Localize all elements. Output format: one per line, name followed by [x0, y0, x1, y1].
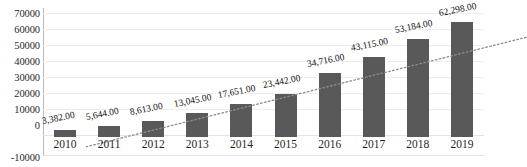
- bar: [54, 130, 76, 136]
- x-tick-label: 2012: [131, 138, 175, 151]
- x-tick-label: 2017: [352, 138, 396, 151]
- y-tick-label: 20000: [0, 89, 40, 100]
- y-tick-label: 10000: [0, 105, 40, 116]
- x-tick-label: 2010: [43, 138, 87, 151]
- y-tick-label: 0: [0, 121, 40, 132]
- y-tick-label: 70000: [0, 9, 40, 20]
- gridline: [43, 13, 484, 14]
- x-tick-label: 2014: [219, 138, 263, 151]
- x-tick-label: 2018: [396, 138, 440, 151]
- x-tick-label: 2011: [87, 138, 131, 151]
- chart-title-remnant: [150, 0, 270, 4]
- y-axis-labels: 70000 60000 50000 40000 30000 20000 1000…: [0, 0, 40, 167]
- y-tick-label: 30000: [0, 73, 40, 84]
- bar-data-label: 3,382.00: [41, 111, 75, 127]
- x-tick-label: 2016: [308, 138, 352, 151]
- y-tick-label: 50000: [0, 41, 40, 52]
- x-tick-label: 2013: [175, 138, 219, 151]
- x-axis-labels: 2010201120122013201420152016201720182019: [43, 138, 484, 154]
- x-tick-label: 2015: [264, 138, 308, 151]
- y-tick-label: 60000: [0, 25, 40, 36]
- y-tick-label: 40000: [0, 57, 40, 68]
- plot-area: 3,382.005,644.008,613.0013,045.0017,651.…: [43, 8, 484, 155]
- y-tick-label: -10000: [0, 153, 40, 164]
- x-tick-label: 2019: [440, 138, 484, 151]
